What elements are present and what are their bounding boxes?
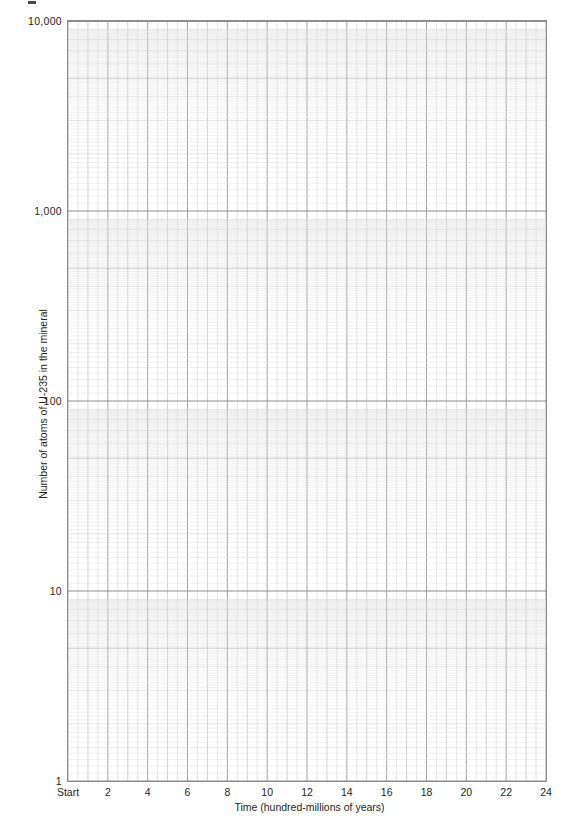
plot-area[interactable] [67, 20, 547, 782]
x-tick-label-16: 16 [381, 786, 393, 798]
y-tick-label-100: 100 [4, 396, 62, 406]
y-tick-label-1000: 1,000 [4, 206, 62, 216]
y-tick-label-10000: 10,000 [4, 16, 62, 26]
x-tick-label-18: 18 [421, 786, 433, 798]
x-tick-label-4: 4 [145, 786, 151, 798]
x-tick-label-2: 2 [105, 786, 111, 798]
x-tick-label-12: 12 [301, 786, 313, 798]
x-axis-title-container: Time (hundred-millions of years) [0, 801, 565, 813]
semilog-grid [68, 21, 546, 781]
y-axis-tick-labels: 10,0001,000100101 [0, 0, 62, 817]
x-tick-label-8: 8 [224, 786, 230, 798]
x-tick-label-22: 22 [500, 786, 512, 798]
y-tick-label-1: 1 [4, 776, 62, 786]
graph-paper-page: Number of atoms of U-235 in the mineral … [0, 0, 565, 817]
x-tick-label-20: 20 [460, 786, 472, 798]
x-axis-title: Time (hundred-millions of years) [234, 801, 384, 813]
x-tick-label-start: Start [57, 786, 79, 798]
x-tick-label-24: 24 [540, 786, 552, 798]
x-tick-label-14: 14 [341, 786, 353, 798]
x-tick-label-10: 10 [261, 786, 273, 798]
x-tick-label-6: 6 [185, 786, 191, 798]
y-tick-label-10: 10 [4, 586, 62, 596]
